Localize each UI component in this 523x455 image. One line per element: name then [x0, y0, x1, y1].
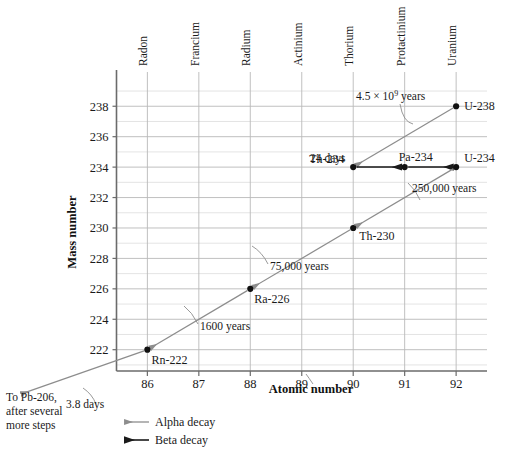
decay-arrows — [21, 108, 453, 394]
y-tick-label-232: 232 — [90, 191, 109, 205]
annotation-leader-lines — [83, 104, 420, 404]
off-chart-note: To Pb-206, after several more steps — [6, 391, 63, 432]
isotope-label-rn-222: Rn-222 — [151, 353, 187, 367]
x-tick-label-88: 88 — [244, 377, 257, 391]
isotope-point-rn-222[interactable] — [144, 347, 150, 353]
decay-arrow-alpha-rn-222-to-off-chart — [21, 351, 144, 394]
halflife-annotation-45e9: 4.5 × 109 years — [356, 89, 426, 104]
note-line-1: To Pb-206, — [6, 391, 57, 404]
x-tick-label-92: 92 — [450, 377, 463, 391]
isotope-point-ra-226[interactable] — [247, 286, 253, 292]
halflife-annotation-1600: 1600 years — [200, 320, 251, 333]
legend-label-beta: Beta decay — [155, 433, 208, 447]
legend: Alpha decay Beta decay — [125, 415, 215, 447]
isotope-label-th-230: Th-230 — [359, 229, 394, 243]
element-name-labels: RadonFranciumRadiumActiniumThoriumProtac… — [137, 7, 458, 66]
note-line-2: after several — [6, 405, 63, 417]
isotope-point-pa-234[interactable] — [402, 164, 408, 170]
element-label-francium: Francium — [189, 22, 201, 66]
isotope-label-ra-226: Ra-226 — [254, 292, 289, 306]
x-axis-title: Atomic number — [269, 382, 354, 396]
y-axis-ticks: 222224226228230232234236238 — [90, 100, 117, 357]
y-tick-label-234: 234 — [90, 161, 110, 175]
element-label-uranium: Uranium — [446, 25, 458, 66]
note-line-3: more steps — [6, 419, 56, 432]
legend-label-alpha: Alpha decay — [155, 415, 215, 429]
isotope-point-th-230[interactable] — [350, 225, 356, 231]
halflife-annotation-250k: 250,000 years — [412, 182, 477, 195]
isotope-label-u-238: U-238 — [464, 99, 495, 113]
isotope-point-th-234[interactable] — [350, 164, 356, 170]
element-label-protactinium: Protactinium — [395, 7, 407, 66]
y-tick-label-230: 230 — [90, 221, 109, 235]
x-tick-label-86: 86 — [141, 377, 154, 391]
element-label-radon: Radon — [137, 36, 149, 66]
annotation-mantissa: 4.5 × 10 — [356, 90, 394, 102]
chart-canvas: 222224226228230232234236238 868788899091… — [0, 0, 523, 455]
x-tick-label-91: 91 — [398, 377, 411, 391]
y-tick-label-226: 226 — [90, 282, 109, 296]
leader-line — [400, 104, 413, 124]
isotope-point-u-238[interactable] — [453, 103, 459, 109]
legend-item-beta[interactable]: Beta decay — [125, 433, 208, 447]
decay-chain-figure: 222224226228230232234236238 868788899091… — [0, 0, 523, 455]
y-axis-title: Mass number — [65, 195, 79, 269]
halflife-annotation-38days: 3.8 days — [66, 398, 105, 411]
isotope-label-u-234: U-234 — [464, 151, 495, 165]
element-label-thorium: Thorium — [343, 26, 355, 66]
y-tick-label-222: 222 — [90, 343, 109, 357]
y-tick-label-236: 236 — [90, 130, 109, 144]
element-label-actinium: Actinium — [292, 23, 304, 66]
annotation-unit: years — [398, 90, 426, 103]
halflife-annotation-75k: 75,000 years — [270, 260, 329, 273]
element-label-radium: Radium — [240, 30, 252, 66]
legend-item-alpha[interactable]: Alpha decay — [125, 415, 215, 429]
isotope-label-pa-234: Pa-234 — [399, 150, 433, 164]
leader-line — [252, 246, 268, 264]
isotope-point-u-234[interactable] — [453, 164, 459, 170]
x-tick-label-87: 87 — [193, 377, 206, 391]
grid-lines — [117, 72, 488, 371]
y-tick-label-228: 228 — [90, 252, 109, 266]
y-tick-label-224: 224 — [90, 313, 110, 327]
y-tick-label-238: 238 — [90, 100, 109, 114]
halflife-annotation-24days: 24 days — [310, 152, 346, 165]
